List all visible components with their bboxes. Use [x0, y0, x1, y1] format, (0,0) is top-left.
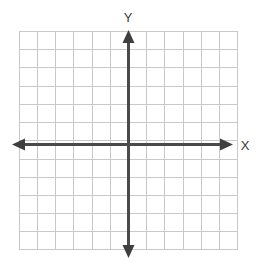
coordinate-plane-svg: Y X	[0, 0, 262, 263]
y-axis-label: Y	[124, 10, 133, 25]
x-axis-label: X	[241, 138, 250, 153]
coordinate-plane-figure: Y X	[0, 0, 262, 263]
